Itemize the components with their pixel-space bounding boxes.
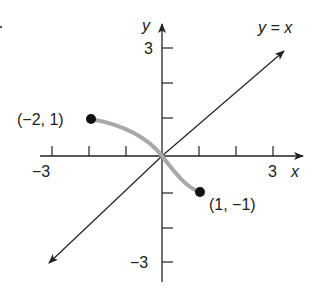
- line-y-equals-x-down: [49, 156, 162, 263]
- point-neg2-1: [86, 114, 96, 124]
- point-1-neg1: [195, 187, 205, 197]
- y-tick-label-3: 3: [144, 40, 153, 57]
- x-tick-label-3: 3: [268, 163, 277, 180]
- line-label-y-equals-x: y = x: [257, 19, 293, 36]
- point-label-neg2-1: (−2, 1): [17, 111, 64, 128]
- x-tick-label-neg3: −3: [32, 163, 50, 180]
- point-label-1-neg1: (1, −1): [209, 196, 256, 213]
- x-axis-label: x: [290, 163, 300, 180]
- y-tick-label-neg3: −3: [130, 254, 148, 271]
- y-axis-label: y: [141, 17, 151, 34]
- artifact-dot: [0, 26, 2, 28]
- coordinate-graph: (−2, 1) (1, −1) y = x y 3 −3 −3 3 x: [0, 0, 322, 289]
- line-y-equals-x-up: [162, 51, 284, 156]
